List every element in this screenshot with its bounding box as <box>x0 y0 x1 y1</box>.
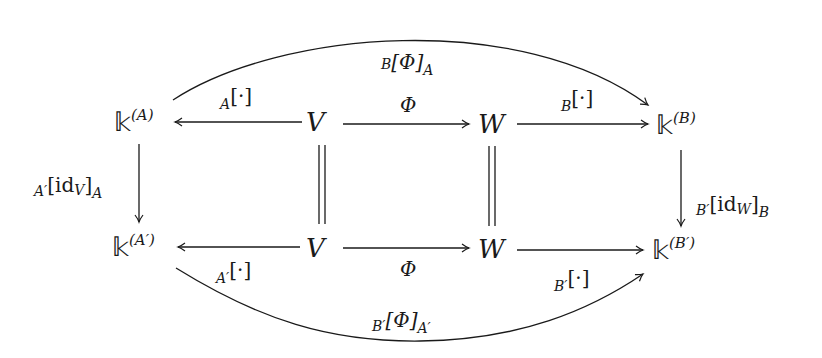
label-w-to-kb: B[·] <box>561 88 593 113</box>
node-k-A: 𝕜(A) <box>114 108 154 135</box>
label-ka-down: A′[idV]A <box>34 175 102 200</box>
node-W-top: W <box>478 111 505 137</box>
label-v-to-ka: A[·] <box>220 86 252 111</box>
node-V-bottom: V <box>306 235 325 261</box>
node-k-B: 𝕜(B) <box>656 111 696 138</box>
label-vp-to-kap: A′[·] <box>216 260 251 285</box>
node-V-top: V <box>306 109 325 135</box>
node-W-bottom: W <box>478 236 505 262</box>
label-bottom-arc: B′[Φ]A′ <box>372 310 431 335</box>
label-v-to-w-top: Φ <box>400 95 416 115</box>
label-top-arc: B[Φ]A <box>381 52 433 77</box>
label-wp-to-kbp: B′[·] <box>554 268 589 293</box>
node-k-B-prime: 𝕜(B′) <box>652 236 695 263</box>
node-k-A-prime: 𝕜(A′) <box>112 233 155 260</box>
label-v-to-w-bottom: Φ <box>400 259 416 279</box>
label-kb-down: B′[idW]B <box>696 194 769 219</box>
